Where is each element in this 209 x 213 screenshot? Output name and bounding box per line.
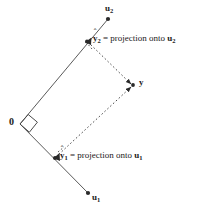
dashed-line-yhat2-to-y (88, 42, 131, 84)
hat-accent-yhat2: ˆ (94, 29, 97, 37)
label-yhat2-equation: ˆy2 = projection onto u2 (93, 34, 176, 44)
point-u2 (106, 17, 110, 21)
label-y-symbol: y (139, 77, 144, 87)
point-u1 (86, 191, 90, 195)
point-yhat1 (53, 156, 57, 160)
diagram-canvas (0, 0, 209, 213)
label-u1: u1 (92, 193, 100, 203)
point-y (131, 83, 135, 87)
label-yhat1-target-subscript: 1 (139, 154, 142, 161)
label-u1-subscript: 1 (97, 196, 100, 203)
label-yhat2-target-subscript: 2 (172, 37, 175, 44)
hat-accent-yhat1: ˆ (61, 146, 64, 154)
point-yhat2 (85, 40, 89, 44)
vector-projection-figure: u2 u1 y 0 ˆy2 = projection onto u2 ˆy1 =… (0, 0, 209, 213)
label-yhat1-symbol: ˆy (60, 151, 65, 160)
label-u2: u2 (105, 4, 113, 14)
label-yhat2-symbol: ˆy (93, 34, 98, 43)
label-origin: 0 (9, 117, 14, 127)
right-angle-marker-icon (20, 115, 37, 133)
label-yhat1-equation: ˆy1 = projection onto u1 (60, 151, 143, 161)
dashed-line-yhat1-to-y (56, 87, 131, 157)
label-yhat2-equals-text: = projection onto (101, 33, 168, 43)
label-y: y (139, 78, 144, 87)
label-yhat1-equals-text: = projection onto (68, 150, 135, 160)
label-u2-subscript: 2 (110, 7, 113, 14)
